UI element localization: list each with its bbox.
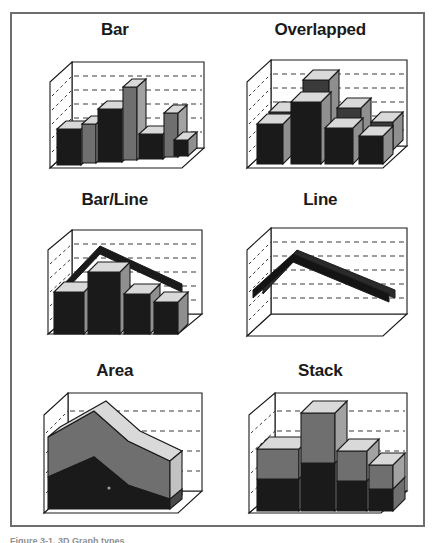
area-chart-3d <box>20 387 210 522</box>
panel-bar[interactable]: Bar <box>12 14 218 184</box>
panel-line[interactable]: Line <box>218 184 424 354</box>
overlapped-chart-3d <box>225 50 415 178</box>
panel-bar-line[interactable]: Bar/Line <box>12 184 218 354</box>
bar-line-chart-3d <box>22 224 207 344</box>
figure-frame: Bar <box>10 12 425 527</box>
panel-title-bar-line: Bar/Line <box>82 190 148 210</box>
panel-title-line: Line <box>303 190 337 210</box>
panel-plot-line <box>218 214 424 354</box>
stack-chart-3d <box>225 387 415 522</box>
figure-caption: Figure 3-1. 3D Graph types <box>10 533 310 543</box>
area-marker-dot <box>107 487 110 490</box>
figure-page: Bar <box>0 0 435 543</box>
panel-plot-area <box>12 385 218 525</box>
panel-title-overlapped: Overlapped <box>274 20 366 40</box>
panel-overlapped[interactable]: Overlapped <box>218 14 424 184</box>
bar-chart-3d <box>22 50 207 178</box>
panel-plot-bar <box>12 44 218 184</box>
panel-title-bar: Bar <box>101 20 129 40</box>
panel-title-area: Area <box>96 361 133 381</box>
panel-area[interactable]: Area <box>12 355 218 525</box>
panel-plot-bar-line <box>12 214 218 354</box>
chart-grid: Bar <box>12 14 423 525</box>
panel-title-stack: Stack <box>298 361 342 381</box>
panel-stack[interactable]: Stack <box>218 355 424 525</box>
line-chart-3d <box>225 224 415 344</box>
panel-plot-stack <box>218 385 424 525</box>
panel-plot-overlapped <box>218 44 424 184</box>
